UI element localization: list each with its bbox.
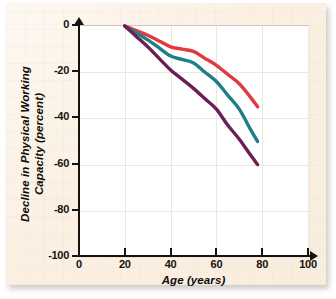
x-axis-tick bbox=[78, 248, 80, 256]
y-axis-tick bbox=[72, 209, 79, 211]
x-axis-tick bbox=[215, 248, 217, 256]
x-axis-tick bbox=[170, 248, 172, 256]
y-axis-tick bbox=[72, 116, 79, 118]
x-axis-tick-label: 80 bbox=[242, 258, 282, 270]
x-axis-line bbox=[78, 255, 315, 257]
x-axis-tick-label: 40 bbox=[151, 258, 191, 270]
y-axis-tick bbox=[72, 163, 79, 165]
y-axis-tick-label: 0 bbox=[23, 18, 69, 30]
x-axis-tick-label: 0 bbox=[59, 258, 99, 270]
x-axis-tick-label: 60 bbox=[196, 258, 236, 270]
y-axis-title-line2: Capacity (percent) bbox=[32, 49, 46, 239]
series-line-lower-curve bbox=[125, 26, 258, 165]
y-axis-line bbox=[78, 22, 80, 257]
x-axis-tick-label: 100 bbox=[288, 258, 328, 270]
y-axis-tick bbox=[72, 24, 79, 26]
x-axis-tick-label: 20 bbox=[105, 258, 145, 270]
x-axis-title: Age (years) bbox=[79, 274, 308, 286]
y-axis-title-line1: Decline in Physical Working bbox=[19, 66, 31, 222]
y-axis-tick bbox=[72, 70, 79, 72]
series-lines bbox=[79, 26, 308, 257]
x-axis-tick bbox=[124, 248, 126, 256]
x-axis-tick bbox=[261, 248, 263, 256]
x-axis-tick bbox=[307, 248, 309, 256]
chart-screenshot: 0-20-40-60-80-100020406080100 Age (years… bbox=[0, 0, 336, 299]
y-axis-title: Decline in Physical Working Capacity (pe… bbox=[18, 49, 46, 239]
plot-area bbox=[79, 25, 309, 257]
gridline-vertical bbox=[308, 26, 309, 257]
